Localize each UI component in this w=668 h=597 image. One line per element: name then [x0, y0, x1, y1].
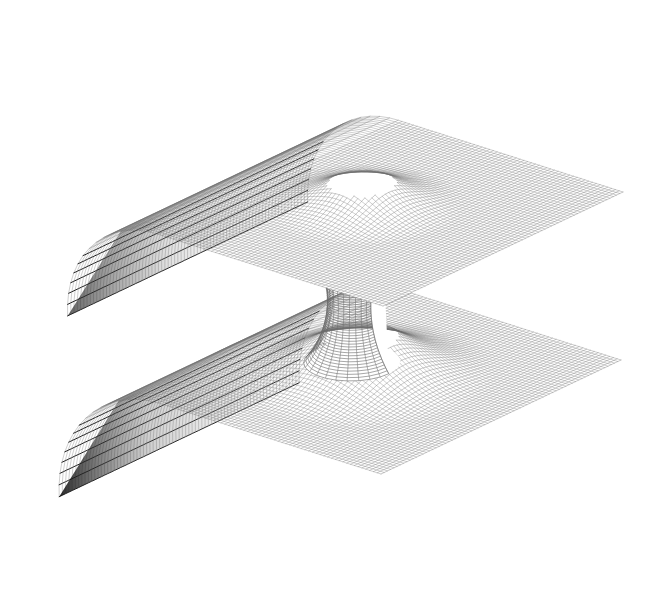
figure-root: os 1 sisa, suono serio ul imilgnos seri,…	[0, 0, 668, 597]
wormhole-surface-plot	[0, 0, 668, 597]
